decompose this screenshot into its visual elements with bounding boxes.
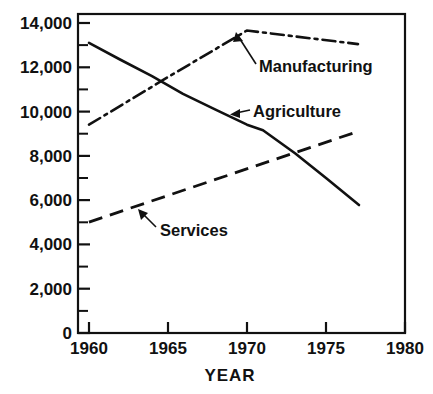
x-axis-title: YEAR	[204, 366, 255, 385]
y-tick-label: 12,000	[20, 58, 72, 77]
x-axis-ticks	[89, 322, 405, 333]
annotation-services: Services	[138, 209, 228, 239]
y-tick-label: 14,000	[20, 14, 72, 33]
y-tick-label: 8,000	[29, 147, 72, 166]
y-tick-label: 10,000	[20, 103, 72, 122]
series-label-agriculture: Agriculture	[253, 102, 341, 120]
y-axis-minor-ticks	[78, 45, 88, 311]
x-tick-label: 1965	[149, 339, 187, 358]
x-tick-label: 1970	[228, 339, 266, 358]
chart-figure: 14,000 12,000 10,000 8,000 6,000 4,000 2…	[0, 0, 433, 394]
annotation-agriculture: Agriculture	[230, 102, 341, 120]
x-tick-label: 1960	[70, 339, 108, 358]
series-label-manufacturing: Manufacturing	[259, 57, 373, 75]
y-tick-label: 6,000	[29, 191, 72, 210]
line-chart-svg: 14,000 12,000 10,000 8,000 6,000 4,000 2…	[0, 0, 433, 394]
y-tick-label: 4,000	[29, 235, 72, 254]
x-tick-label: 1980	[386, 339, 424, 358]
y-tick-label: 2,000	[29, 280, 72, 299]
series-line-services	[89, 131, 359, 222]
series-label-services: Services	[160, 221, 228, 239]
x-tick-label: 1975	[307, 339, 345, 358]
